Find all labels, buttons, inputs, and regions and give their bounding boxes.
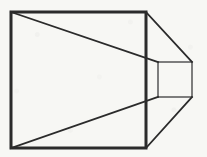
outer-bottom-diagonal (146, 97, 192, 148)
line-drawing (0, 0, 207, 157)
small-rear-square (158, 62, 192, 97)
outer-top-diagonal (146, 12, 192, 62)
figure-canvas (0, 0, 207, 157)
inner-top-diagonal (11, 12, 158, 62)
inner-bottom-diagonal (11, 97, 158, 148)
large-front-square (11, 12, 146, 148)
